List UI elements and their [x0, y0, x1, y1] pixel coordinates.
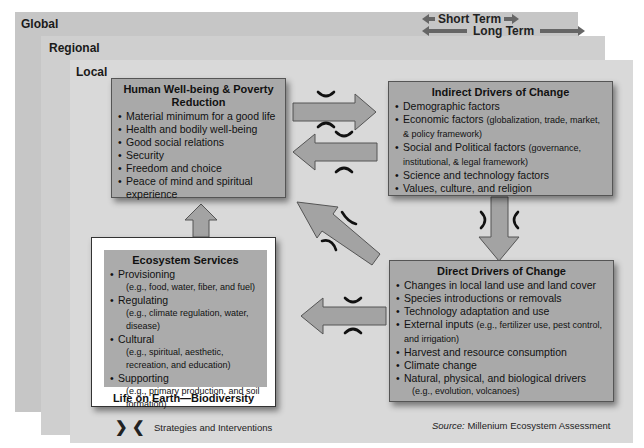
- intervention-bracket-icon: [481, 212, 485, 228]
- list-item: Health and bodily well-being: [118, 123, 279, 136]
- human-wellbeing-title: Human Well-being & Poverty Reduction: [118, 83, 279, 109]
- intervention-bracket-icon: [318, 92, 334, 96]
- intervention-bracket-icon: [514, 212, 518, 228]
- list-item: Freedom and choice: [118, 162, 279, 175]
- arrow-indirect-to-wellbeing: [293, 134, 377, 170]
- intervention-bracket-icon: [342, 212, 356, 224]
- list-item: Science and technology factors: [395, 169, 606, 182]
- list-item: Natural, physical, and biological driver…: [396, 372, 607, 398]
- intervention-bracket-icon: [322, 240, 336, 250]
- ecosystem-services-box: Ecosystem Services Provisioning(e.g., fo…: [104, 250, 267, 387]
- human-wellbeing-box: Human Well-being & Poverty Reduction Mat…: [111, 78, 286, 198]
- list-item: Cultural(e.g., spiritual, aesthetic, rec…: [110, 333, 261, 372]
- list-item: Security: [118, 149, 279, 162]
- list-item: Regulating(e.g., climate regulation, wat…: [110, 294, 261, 333]
- direct-drivers-list: Changes in local land use and land cover…: [396, 279, 607, 398]
- source-prefix: Source:: [432, 420, 465, 431]
- legend: ❯❮ Strategies and Interventions: [115, 418, 272, 436]
- source-citation: Source: Millenium Ecosystem Assessment: [432, 420, 610, 431]
- list-item: Economic factors (globalization, trade, …: [395, 113, 606, 141]
- list-item: External inputs (e.g., fertilizer use, p…: [396, 318, 607, 346]
- arrow-services-to-wellbeing: [185, 204, 217, 237]
- list-item: Provisioning(e.g., food, water, fiber, a…: [110, 268, 261, 294]
- intervention-bracket-icon: [345, 298, 361, 302]
- list-item: Good social relations: [118, 136, 279, 149]
- intervention-bracket-icon: [336, 168, 352, 172]
- human-wellbeing-list: Material minimum for a good life Health …: [118, 110, 279, 201]
- source-text: Millenium Ecosystem Assessment: [465, 420, 611, 431]
- list-item: Demographic factors: [395, 100, 606, 113]
- list-item: Climate change: [396, 359, 607, 372]
- list-item: Values, culture, and religion: [395, 182, 606, 195]
- intervention-bracket-icon: [336, 132, 352, 136]
- indirect-drivers-list: Demographic factors Economic factors (gl…: [395, 100, 606, 195]
- indirect-drivers-title: Indirect Drivers of Change: [395, 86, 606, 99]
- list-item: Social and Political factors (governance…: [395, 141, 606, 169]
- ecosystem-services-title: Ecosystem Services: [110, 254, 261, 267]
- direct-drivers-box: Direct Drivers of Change Changes in loca…: [389, 260, 614, 402]
- list-item: Technology adaptation and use: [396, 305, 607, 318]
- list-item: Changes in local land use and land cover: [396, 279, 607, 292]
- list-item: Peace of mind and spiritual experience: [118, 175, 279, 201]
- arrow-direct-to-wellbeing: [297, 202, 380, 265]
- biodiversity-label: Life on Earth—Biodiversity: [91, 392, 276, 404]
- legend-label: Strategies and Interventions: [154, 422, 272, 433]
- indirect-drivers-box: Indirect Drivers of Change Demographic f…: [388, 81, 613, 196]
- arrow-indirect-to-direct: [479, 197, 519, 261]
- intervention-bracket-icon: ❯❮: [115, 418, 149, 436]
- direct-drivers-title: Direct Drivers of Change: [396, 265, 607, 278]
- ecosystem-services-list: Provisioning(e.g., food, water, fiber, a…: [110, 268, 261, 411]
- list-item: Species introductions or removals: [396, 292, 607, 305]
- arrow-wellbeing-to-indirect: [293, 94, 376, 130]
- intervention-bracket-icon: [318, 123, 334, 127]
- arrow-direct-to-services: [301, 298, 386, 334]
- list-item: Harvest and resource consumption: [396, 346, 607, 359]
- list-item: Material minimum for a good life: [118, 110, 279, 123]
- intervention-bracket-icon: [345, 329, 361, 333]
